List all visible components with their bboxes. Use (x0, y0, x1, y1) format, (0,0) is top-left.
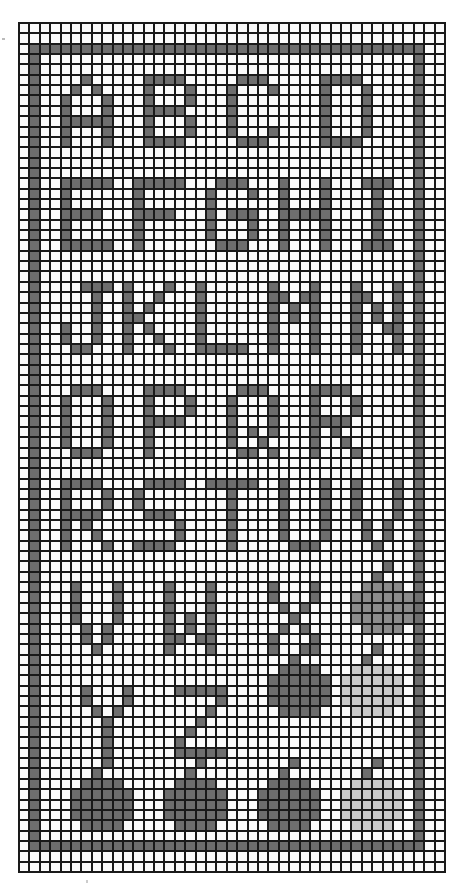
grid-cell (301, 241, 309, 249)
grid-cell (280, 55, 288, 63)
grid-cell (134, 138, 142, 146)
grid-cell (301, 573, 309, 581)
stitch-cell (228, 542, 236, 550)
grid-cell (72, 552, 80, 560)
grid-cell (103, 293, 111, 301)
stitch-cell (404, 45, 412, 53)
grid-cell (207, 86, 215, 94)
grid-cell (20, 397, 28, 405)
grid-cell (404, 459, 412, 467)
stitch-cell (415, 625, 423, 633)
grid-cell (114, 293, 122, 301)
stitch-cell (415, 687, 423, 695)
grid-cell (404, 707, 412, 715)
grid-cell (373, 397, 381, 405)
stitch-cell (62, 231, 70, 239)
grid-cell (436, 86, 444, 94)
grid-cell (93, 138, 101, 146)
grid-cell (51, 780, 59, 788)
grid-cell (62, 718, 70, 726)
grid-cell (217, 500, 225, 508)
grid-cell (41, 335, 49, 343)
grid-cell (404, 86, 412, 94)
grid-cell (436, 386, 444, 394)
stitch-cell (415, 832, 423, 840)
grid-cell (425, 500, 433, 508)
grid-cell (321, 780, 329, 788)
stitch-cell (259, 790, 267, 798)
stitch-cell (415, 759, 423, 767)
grid-cell (51, 304, 59, 312)
margin-mark (2, 38, 5, 40)
grid-cell (301, 221, 309, 229)
grid-cell (207, 241, 215, 249)
grid-cell (20, 221, 28, 229)
stitch-cell (259, 138, 267, 146)
grid-cell (176, 832, 184, 840)
grid-cell (124, 604, 132, 612)
grid-cell (124, 221, 132, 229)
stitch-cell (290, 614, 298, 622)
grid-cell (259, 531, 267, 539)
grid-cell (155, 55, 163, 63)
stitch-cell (311, 635, 319, 643)
stitch-cell (93, 210, 101, 218)
grid-cell (332, 241, 340, 249)
grid-cell (404, 656, 412, 664)
stitch-cell (30, 366, 38, 374)
grid-cell (93, 562, 101, 570)
grid-cell (321, 65, 329, 73)
grid-cell (82, 645, 90, 653)
grid-cell (425, 687, 433, 695)
grid-cell (165, 231, 173, 239)
stitch-cell (30, 179, 38, 187)
grid-cell (186, 697, 194, 705)
grid-cell (228, 852, 236, 860)
grid-cell (207, 272, 215, 280)
stitch-cell (93, 842, 101, 850)
stitch-cell (415, 459, 423, 467)
grid-cell (72, 407, 80, 415)
grid-cell (41, 24, 49, 32)
grid-cell (145, 500, 153, 508)
grid-cell (228, 707, 236, 715)
grid-cell (155, 314, 163, 322)
grid-cell (238, 252, 246, 260)
grid-cell (145, 697, 153, 705)
stitch-cell (342, 138, 350, 146)
grid-cell (51, 542, 59, 550)
grid-cell (363, 449, 371, 457)
grid-cell (228, 469, 236, 477)
grid-cell (249, 65, 257, 73)
grid-cell (103, 190, 111, 198)
stitch-cell (311, 345, 319, 353)
stitch-cell (207, 480, 215, 488)
grid-cell (238, 283, 246, 291)
grid-cell (134, 511, 142, 519)
stitch-cell (82, 521, 90, 529)
grid-cell (404, 293, 412, 301)
grid-cell (228, 283, 236, 291)
grid-cell (404, 76, 412, 84)
stitch-cell (280, 780, 288, 788)
grid-cell (155, 500, 163, 508)
grid-cell (352, 117, 360, 125)
grid-cell (165, 65, 173, 73)
grid-cell (207, 500, 215, 508)
grid-cell (280, 117, 288, 125)
grid-cell (217, 707, 225, 715)
stitch-cell (394, 790, 402, 798)
grid-cell (103, 687, 111, 695)
stitch-cell (165, 107, 173, 115)
grid-cell (165, 169, 173, 177)
stitch-cell (415, 676, 423, 684)
stitch-cell (124, 283, 132, 291)
grid-cell (269, 438, 277, 446)
grid-cell (93, 687, 101, 695)
stitch-cell (311, 707, 319, 715)
grid-cell (259, 241, 267, 249)
stitch-cell (228, 490, 236, 498)
grid-cell (249, 625, 257, 633)
grid-cell (311, 221, 319, 229)
grid-cell (51, 241, 59, 249)
